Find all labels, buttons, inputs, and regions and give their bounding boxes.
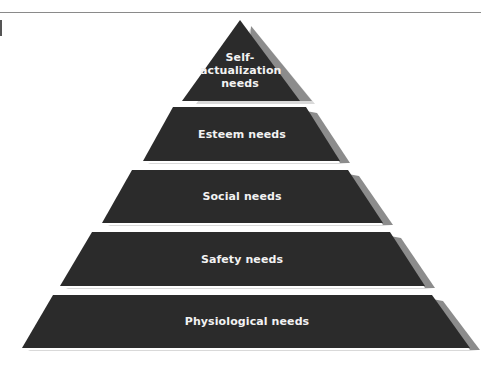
label-line: Self- — [200, 51, 280, 64]
level-label-social: Social needs — [192, 190, 292, 203]
level-label-physiological: Physiological needs — [172, 315, 322, 328]
level-highlight — [148, 163, 348, 164]
level-highlight — [66, 288, 434, 289]
level-label-safety: Safety needs — [182, 253, 302, 266]
level-label-self-actualization: Self- actualization needs — [200, 51, 280, 90]
level-highlight — [108, 225, 392, 226]
label-line: needs — [200, 77, 280, 90]
level-highlight — [28, 350, 478, 351]
label-line: actualization — [200, 64, 280, 77]
level-label-esteem: Esteem needs — [192, 128, 292, 141]
